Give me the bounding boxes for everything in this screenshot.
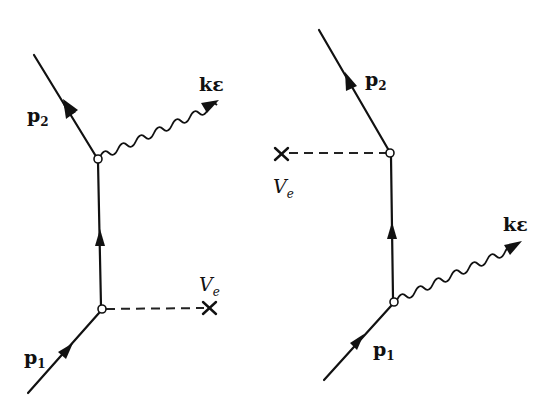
left-potential-dashed-line [106,308,204,309]
right-lower-vertex [390,298,398,306]
right-diagram: p2 Ve kε p1 [273,30,528,380]
right-p2-label: p2 [365,68,387,93]
right-photon-wave-line [397,246,514,300]
left-propagator-arrow-icon [95,229,105,246]
left-upper-vertex [94,155,102,163]
right-photon-arrowhead-icon [504,241,522,255]
left-p2-label: p2 [27,104,49,129]
right-potential-cross-icon [275,148,288,160]
left-potential-cross-icon [203,302,216,314]
left-photon-label: kε [199,73,224,95]
left-photon-arrowhead-icon [201,100,219,113]
left-lower-vertex [98,305,106,313]
right-p2-arrowhead-icon [345,72,357,91]
right-propagator-arrow-icon [387,222,397,239]
left-p1-label: p1 [24,346,46,371]
right-p1-label: p1 [373,338,395,363]
left-diagram: p2 kε Ve p1 [24,55,224,393]
right-potential-label: Ve [273,175,294,201]
right-photon-label: kε [503,213,528,235]
feynman-diagrams: p2 kε Ve p1 p2 Ve [0,0,548,406]
left-photon-wave-line [100,103,217,157]
left-potential-label: Ve [199,273,220,299]
right-upper-vertex [386,149,394,157]
